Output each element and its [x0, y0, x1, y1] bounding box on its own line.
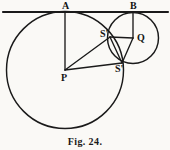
figure-container: A B P Q S' S' Fig. 24. [0, 0, 170, 150]
geometry-diagram [0, 0, 170, 150]
vertex-label-A: A [62, 1, 69, 11]
vertex-label-B: B [130, 1, 137, 11]
figure-caption: Fig. 24. [0, 136, 170, 147]
vertex-label-S-lower: S' [115, 64, 123, 74]
vertex-label-Q: Q [137, 33, 145, 43]
vertex-label-P: P [61, 73, 67, 83]
vertex-label-S-upper: S' [100, 29, 108, 39]
segment-QS2 [122, 38, 133, 63]
